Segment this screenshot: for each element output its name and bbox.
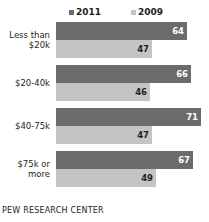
bar-2011[interactable]: 71 xyxy=(56,108,201,126)
bar-2011[interactable]: 64 xyxy=(56,22,187,40)
bar-row: 67 xyxy=(56,151,209,169)
bar-value-2011: 64 xyxy=(172,27,184,36)
bar-value-2009: 47 xyxy=(137,45,149,54)
category-label: $20-40k xyxy=(0,65,53,101)
bar-value-2011: 67 xyxy=(178,156,190,165)
bar-value-2011: 66 xyxy=(176,70,188,79)
legend-swatch-2009 xyxy=(131,10,136,15)
bar-group: $75k or more 67 49 xyxy=(0,151,209,187)
bar-row: 47 xyxy=(56,126,209,144)
bar-value-2011: 71 xyxy=(186,113,198,122)
bar-2009[interactable]: 47 xyxy=(56,40,152,58)
legend-item-2011[interactable]: 2011 xyxy=(69,5,101,19)
category-label: $75k or more xyxy=(0,151,53,187)
bar-value-2009: 49 xyxy=(141,174,153,183)
bar-row: 64 xyxy=(56,22,209,40)
bar-pair: 64 47 xyxy=(56,22,209,58)
bar-row: 47 xyxy=(56,40,209,58)
legend-label-2009: 2009 xyxy=(138,7,163,17)
legend-label-2011: 2011 xyxy=(76,7,101,17)
bar-2011[interactable]: 66 xyxy=(56,65,191,83)
bar-2009[interactable]: 46 xyxy=(56,83,150,101)
bar-value-2009: 46 xyxy=(135,88,147,97)
chart-legend: 2011 2009 xyxy=(0,5,209,19)
bar-group: $20-40k 66 46 xyxy=(0,65,209,101)
category-label: Less than $20k xyxy=(0,22,53,58)
bar-row: 71 xyxy=(56,108,209,126)
bar-pair: 67 49 xyxy=(56,151,209,187)
category-label: $40-75k xyxy=(0,108,53,144)
bar-2009[interactable]: 47 xyxy=(56,126,152,144)
bar-2011[interactable]: 67 xyxy=(56,151,193,169)
bar-row: 49 xyxy=(56,169,209,187)
bar-pair: 71 47 xyxy=(56,108,209,144)
legend-item-2009[interactable]: 2009 xyxy=(131,5,163,19)
bar-group: Less than $20k 64 47 xyxy=(0,22,209,58)
grouped-bar-chart: 2011 2009 Less than $20k 64 47 xyxy=(0,0,209,222)
source-attribution: PEW RESEARCH CENTER xyxy=(2,206,104,216)
bar-row: 66 xyxy=(56,65,209,83)
plot-area: Less than $20k 64 47 $20-40k xyxy=(0,22,209,194)
bar-row: 46 xyxy=(56,83,209,101)
bar-value-2009: 47 xyxy=(137,131,149,140)
bar-2009[interactable]: 49 xyxy=(56,169,156,187)
legend-swatch-2011 xyxy=(69,10,74,15)
bar-pair: 66 46 xyxy=(56,65,209,101)
bar-group: $40-75k 71 47 xyxy=(0,108,209,144)
